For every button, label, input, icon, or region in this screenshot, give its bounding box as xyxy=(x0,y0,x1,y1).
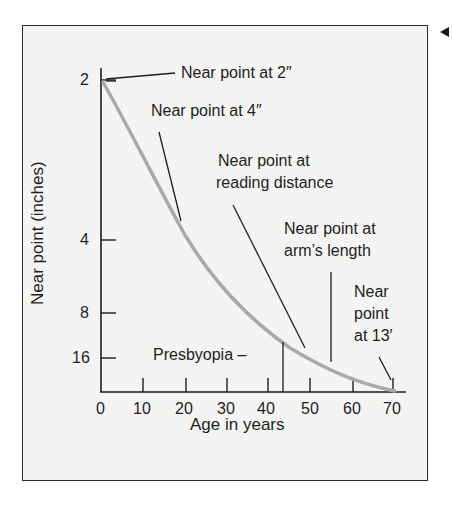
annotation-near-point-4in: Near point at 4″ xyxy=(151,101,262,121)
y-tick-16: 16 xyxy=(72,349,90,367)
x-tick-10: 10 xyxy=(133,400,151,418)
annotation-presbyopia: Presbyopia – xyxy=(153,345,246,365)
x-tick-70: 70 xyxy=(383,400,401,418)
annotation-far-line1: Near xyxy=(354,282,389,302)
y-tick-2: 2 xyxy=(80,71,89,89)
y-tick-8: 8 xyxy=(80,304,89,322)
x-tick-60: 60 xyxy=(343,400,361,418)
y-tick-4: 4 xyxy=(80,231,89,249)
x-tick-50: 50 xyxy=(301,400,319,418)
annotation-far-line2: point xyxy=(354,304,389,324)
pointer-arrow-icon xyxy=(440,27,449,37)
annotation-arm-line2: arm’s length xyxy=(284,241,371,261)
annotation-arm-line1: Near point at xyxy=(284,219,376,239)
annotation-near-point-2in: Near point at 2″ xyxy=(181,63,292,83)
x-tick-0: 0 xyxy=(96,400,105,418)
y-axis-label: Near point (inches) xyxy=(28,161,48,305)
annotation-reading-line1: Near point at xyxy=(218,151,310,171)
annotation-far-line3: at 13′ xyxy=(354,326,393,346)
annotation-reading-line2: reading distance xyxy=(216,173,333,193)
x-axis-label: Age in years xyxy=(190,415,285,435)
y-ticks xyxy=(101,80,116,358)
